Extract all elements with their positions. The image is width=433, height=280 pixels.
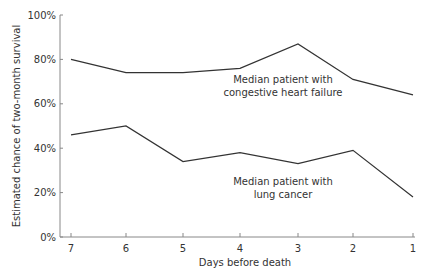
x-axis-title: Days before death (199, 257, 291, 268)
x-tick-label: 3 (295, 243, 301, 254)
x-tick-label: 7 (68, 243, 74, 254)
chf-annotation: Median patient withcongestive heart fail… (223, 74, 342, 98)
x-tick-label: 4 (237, 243, 243, 254)
x-tick-label: 2 (350, 243, 356, 254)
y-tick-label: 60% (34, 98, 56, 109)
y-tick-label: 0% (40, 232, 56, 243)
svg-text:lung cancer: lung cancer (254, 189, 314, 200)
lung-cancer-annotation: Median patient withlung cancer (233, 176, 333, 200)
line-chart: 0%20%40%60%80%100%7654321Days before dea… (0, 0, 433, 280)
svg-text:Median patient with: Median patient with (233, 176, 333, 187)
y-tick-label: 40% (34, 143, 56, 154)
svg-text:congestive heart failure: congestive heart failure (223, 87, 342, 98)
y-tick-label: 20% (34, 187, 56, 198)
y-tick-label: 80% (34, 54, 56, 65)
y-axis-title: Estimated chance of two-month survival (11, 25, 22, 227)
svg-text:Median patient with: Median patient with (233, 74, 333, 85)
x-tick-label: 1 (410, 243, 416, 254)
x-tick-label: 5 (180, 243, 186, 254)
x-tick-label: 6 (123, 243, 129, 254)
y-tick-label: 100% (27, 10, 56, 21)
